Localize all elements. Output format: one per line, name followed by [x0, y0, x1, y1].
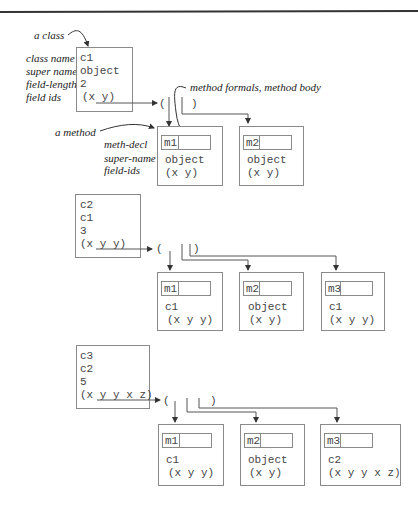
method-super: c1 — [165, 301, 179, 313]
method-name: m2 — [247, 435, 260, 447]
label-meth-decl: meth-decl — [104, 138, 147, 150]
method-field-ids: (x y) — [249, 314, 282, 326]
method-name: m1 — [165, 435, 179, 447]
label-field-length: field-length — [26, 78, 77, 90]
class-name: c1 — [80, 52, 94, 64]
method-box-c3-m1: m1 (x y y) c1 (x y y) — [159, 425, 224, 486]
super-name: c2 — [80, 363, 93, 375]
class-name: c3 — [80, 350, 93, 362]
class-name: c2 — [80, 199, 93, 211]
method-link-m3 — [190, 244, 336, 270]
field-length: 3 — [80, 225, 87, 237]
method-name: m3 — [327, 435, 340, 447]
a-class-pointer — [68, 31, 88, 46]
method-field-ids: (x y) — [247, 167, 280, 179]
list-close-paren: ) — [193, 243, 200, 255]
method-link-m2 — [187, 398, 256, 422]
annotation-a-method: a method — [55, 126, 96, 138]
field-ids: (x y y) — [80, 238, 126, 250]
method-field-ids: (x y y) — [167, 314, 213, 326]
annotation-method-formals: method formals, method body — [190, 81, 321, 93]
method-name: m1 — [164, 283, 178, 295]
method-box-c2-m3: m3 c1 (x y y) — [322, 273, 385, 331]
method-link-m2 — [182, 244, 248, 270]
label-class-name: class name — [26, 52, 75, 64]
super-name: c1 — [80, 212, 94, 224]
field-ids: (x y) — [82, 91, 115, 103]
class-method-diagram: a class class name super name field-leng… — [0, 0, 418, 508]
class-box-c3: c3 c2 5 (x y y x z) — [77, 346, 153, 409]
list-open-paren: ( — [156, 243, 163, 255]
label-field-ids: field ids — [26, 91, 61, 103]
annotation-a-class: a class — [34, 29, 64, 41]
field-ids: (x y y x z) — [80, 389, 153, 401]
method-super: c2 — [328, 454, 341, 466]
list-close-paren: ) — [210, 395, 217, 407]
class-box-c2: c2 c1 3 (x y y) — [76, 195, 141, 258]
method-super: c1 — [166, 454, 180, 466]
list-open-paren: ( — [159, 98, 166, 110]
method-super: object — [248, 454, 288, 466]
method-box-c1-m1: m1 object (x y) — [158, 127, 223, 186]
method-box-c2-m2: m2 object (x y) — [240, 273, 304, 331]
method-name: m2 — [246, 137, 259, 149]
method-field-ids: (x y) — [165, 167, 198, 179]
method-box-c3-m3: m3 c2 (x y y x z) — [321, 425, 401, 486]
method-super: object — [248, 301, 288, 313]
method-name: m2 — [246, 283, 259, 295]
method-field-ids: (x y y) — [168, 467, 214, 479]
class-box-c1: c1 object 2 (x y) — [77, 48, 133, 112]
label-super-name: super name — [26, 65, 77, 77]
label-super-name-m: super-name — [104, 152, 156, 164]
method-name: m3 — [328, 283, 341, 295]
method-super: c1 — [329, 301, 343, 313]
a-method-pointer — [100, 124, 154, 131]
method-box-c1-m2: m2 object (x y) — [240, 127, 304, 186]
method-box-c3-m2: m2 object (x y) — [241, 425, 305, 486]
field-length: 2 — [80, 78, 87, 90]
method-field-ids: (x y y x z) — [328, 467, 401, 479]
list-open-paren: ( — [163, 395, 170, 407]
super-name: object — [80, 65, 120, 77]
method-super: object — [165, 154, 205, 166]
method-field-ids: (x y) — [249, 467, 282, 479]
list-close-paren: ) — [191, 98, 198, 110]
top-rule — [0, 11, 418, 12]
field-length: 5 — [80, 376, 87, 388]
method-box-c2-m1: m1 c1 (x y y) — [158, 273, 223, 331]
method-super: object — [247, 154, 287, 166]
method-field-ids: (x y y) — [329, 314, 375, 326]
method-link-m3 — [199, 398, 337, 422]
label-field-ids-m: field-ids — [104, 164, 140, 176]
method-name: m1 — [164, 137, 178, 149]
